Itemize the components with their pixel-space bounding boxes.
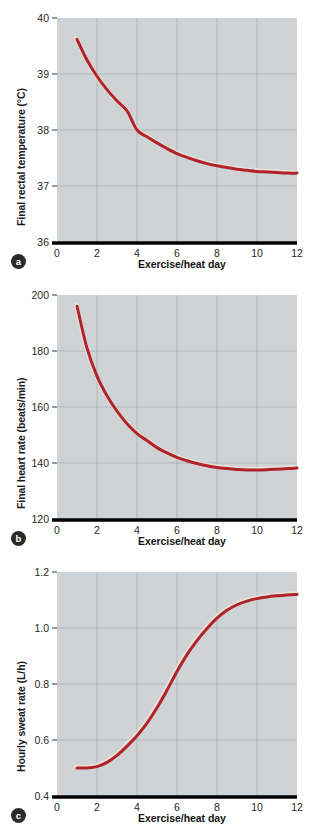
panel-b: 120140160180200024681012 Final heart rat… (0, 277, 319, 553)
x-tick-label: 12 (291, 524, 303, 536)
x-tick-label: 0 (54, 801, 60, 813)
y-tick-label: 1.0 (34, 622, 49, 634)
x-tick-label: 10 (251, 801, 263, 813)
plot-area-a: 3637383940024681012 (0, 0, 319, 276)
x-tick-label: 10 (251, 247, 263, 259)
y-tick-label: 120 (31, 513, 49, 525)
y-tick-label: 1.2 (34, 566, 49, 578)
panel-marker-b: b (11, 531, 26, 546)
y-tick-label: 36 (37, 236, 49, 248)
panel-a: 3637383940024681012 Final rectal tempera… (0, 0, 319, 276)
figure-three-panel-heat-acclimation: 3637383940024681012 Final rectal tempera… (0, 0, 319, 830)
plot-area-c: 0.40.60.81.01.2024681012 (0, 554, 319, 830)
y-tick-label: 38 (37, 124, 49, 136)
panel-marker-c: c (11, 808, 26, 823)
x-tick-label: 2 (94, 801, 100, 813)
y-tick-label: 140 (31, 457, 49, 469)
y-tick-label: 0.8 (34, 678, 49, 690)
y-tick-label: 160 (31, 401, 49, 413)
x-tick-label: 2 (94, 524, 100, 536)
x-tick-label: 0 (54, 524, 60, 536)
y-axis-label-c: Hourly sweat rate (L/h) (15, 661, 27, 772)
y-axis-label-a: Final rectal temperature (°C) (15, 88, 27, 226)
y-tick-label: 0.4 (34, 790, 49, 802)
x-tick-label: 2 (94, 247, 100, 259)
x-tick-label: 10 (251, 524, 263, 536)
y-tick-label: 37 (37, 180, 49, 192)
x-axis-label-a: Exercise/heat day (138, 258, 226, 270)
y-tick-label: 0.6 (34, 734, 49, 746)
x-tick-label: 12 (291, 801, 303, 813)
x-tick-label: 0 (54, 247, 60, 259)
y-axis-label-b: Final heart rate (beats/min) (15, 378, 27, 509)
panel-marker-a: a (11, 254, 26, 269)
y-tick-label: 40 (37, 12, 49, 24)
x-axis-label-c: Exercise/heat day (138, 812, 226, 824)
plot-area-b: 120140160180200024681012 (0, 277, 319, 553)
y-tick-label: 200 (31, 289, 49, 301)
x-tick-label: 12 (291, 247, 303, 259)
panel-c: 0.40.60.81.01.2024681012 Hourly sweat ra… (0, 554, 319, 830)
y-tick-label: 39 (37, 68, 49, 80)
x-axis-label-b: Exercise/heat day (138, 535, 226, 547)
y-tick-label: 180 (31, 345, 49, 357)
